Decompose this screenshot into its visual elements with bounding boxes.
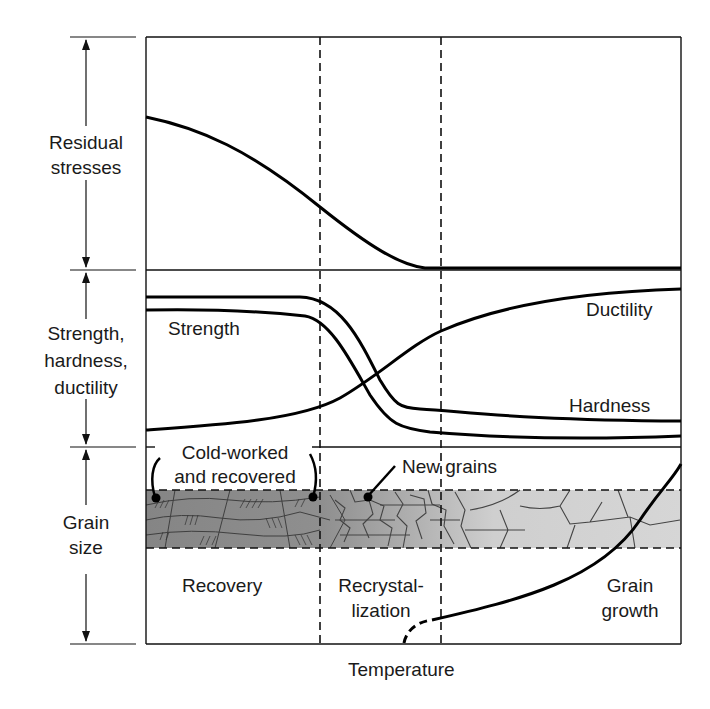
grain-size-label: Grain size [40, 510, 132, 560]
grain-structure-band [146, 490, 681, 548]
residual-stress-curve [146, 117, 681, 268]
cold-worked-annotation: Cold-worked and recovered [160, 441, 310, 489]
grain-growth-region-label: Grain growth [590, 573, 670, 623]
recrystallization-region-label: Recrystal- lization [322, 573, 440, 623]
ductility-curve-label: Ductility [586, 297, 653, 322]
properties-label: Strength, hardness, ductility [28, 320, 144, 401]
hardness-curve-label: Hardness [569, 393, 650, 418]
x-axis-label: Temperature [348, 657, 455, 682]
strength-curve-label: Strength [168, 316, 240, 341]
grain-growth-curve-dashed [404, 620, 432, 643]
recovery-region-label: Recovery [182, 573, 262, 598]
residual-stresses-label: Residual stresses [30, 130, 142, 180]
new-grains-annotation: New grains [402, 454, 497, 479]
